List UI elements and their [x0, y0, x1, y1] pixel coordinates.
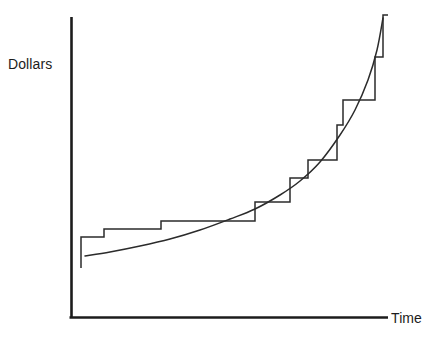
- chart-plot-area: [0, 0, 430, 339]
- x-axis-label: Time: [391, 310, 422, 326]
- chart-figure: Dollars Time: [0, 0, 430, 339]
- chart-background: [0, 0, 430, 339]
- y-axis-label: Dollars: [8, 56, 52, 72]
